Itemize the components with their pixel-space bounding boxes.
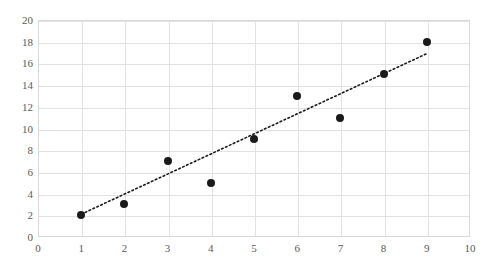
gridline-vertical	[385, 21, 386, 236]
x-tick-label: 2	[111, 243, 137, 254]
x-tick-label: 4	[198, 243, 224, 254]
x-tick-label: 10	[457, 243, 483, 254]
gridline-horizontal	[39, 130, 469, 131]
y-tick-label: 10	[7, 124, 33, 135]
y-tick-label: 16	[7, 58, 33, 69]
gridline-horizontal	[39, 43, 469, 44]
x-tick-label: 1	[68, 243, 94, 254]
gridline-vertical	[212, 21, 213, 236]
y-tick-label: 0	[7, 232, 33, 243]
gridline-horizontal	[39, 86, 469, 87]
gridline-horizontal	[39, 64, 469, 65]
gridline-vertical	[169, 21, 170, 236]
gridline-horizontal	[39, 21, 469, 22]
y-tick-label: 18	[7, 37, 33, 48]
y-tick-label: 12	[7, 102, 33, 113]
y-tick-label: 20	[7, 15, 33, 26]
scatter-chart: 02468101214161820 012345678910	[0, 14, 489, 258]
y-tick-label: 2	[7, 210, 33, 221]
y-tick-label: 8	[7, 145, 33, 156]
gridline-vertical	[341, 21, 342, 236]
x-tick-label: 5	[241, 243, 267, 254]
gridline-vertical	[255, 21, 256, 236]
gridline-vertical	[125, 21, 126, 236]
y-tick-label: 14	[7, 80, 33, 91]
y-tick-label: 4	[7, 189, 33, 200]
plot-area	[38, 20, 470, 237]
x-tick-label: 0	[25, 243, 51, 254]
gridline-vertical	[298, 21, 299, 236]
clipped-text-above-figure	[0, 0, 489, 8]
gridline-horizontal	[39, 216, 469, 217]
gridline-horizontal	[39, 195, 469, 196]
gridline-horizontal	[39, 151, 469, 152]
gridline-horizontal	[39, 173, 469, 174]
x-tick-label: 9	[414, 243, 440, 254]
clipped-text-below-figure	[0, 256, 489, 266]
x-tick-label: 3	[155, 243, 181, 254]
figure-caption	[0, 268, 489, 278]
x-tick-label: 7	[327, 243, 353, 254]
gridline-horizontal	[39, 108, 469, 109]
x-tick-label: 8	[371, 243, 397, 254]
y-tick-label: 6	[7, 167, 33, 178]
gridline-vertical	[82, 21, 83, 236]
x-tick-label: 6	[284, 243, 310, 254]
gridline-vertical	[428, 21, 429, 236]
